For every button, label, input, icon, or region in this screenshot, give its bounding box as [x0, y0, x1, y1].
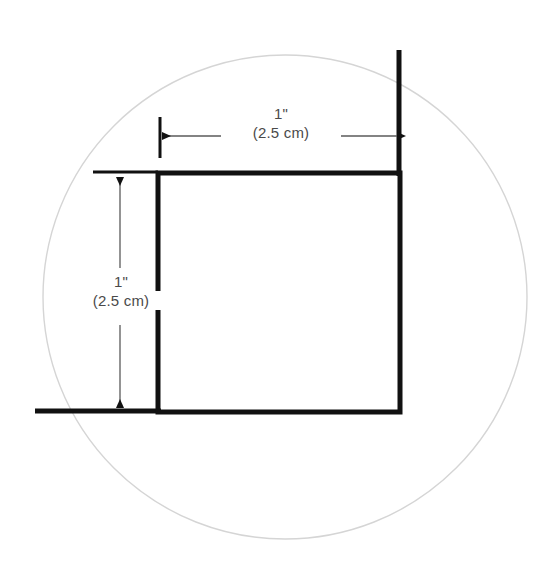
- width-dimension-label: 1" (2.5 cm): [221, 104, 341, 142]
- height-label-inches: 1": [60, 272, 182, 291]
- square-outline: [158, 173, 400, 412]
- width-label-centimeters: (2.5 cm): [221, 123, 341, 142]
- width-label-inches: 1": [221, 104, 341, 123]
- dimension-diagram: 1" (2.5 cm) 1" (2.5 cm): [0, 0, 543, 585]
- height-dimension-label: 1" (2.5 cm): [60, 272, 182, 310]
- height-label-centimeters: (2.5 cm): [60, 291, 182, 310]
